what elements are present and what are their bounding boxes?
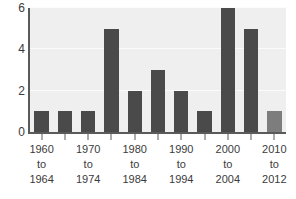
x-axis-tick-label: 1960to1964 — [19, 142, 65, 187]
bar — [221, 8, 235, 132]
x-axis-tick-label-line: 1994 — [158, 172, 204, 187]
x-axis-tick-label-line: to — [251, 157, 296, 172]
x-axis-tick — [134, 134, 135, 140]
bar — [128, 91, 142, 132]
x-axis-tick — [274, 134, 275, 140]
x-axis-tick-label-line: to — [65, 157, 111, 172]
x-axis-tick-label: 1970to1974 — [65, 142, 111, 187]
bar — [58, 111, 72, 132]
bar — [197, 111, 211, 132]
y-axis-tick-label: 4 — [6, 43, 25, 55]
bar — [34, 111, 48, 132]
x-axis-tick — [181, 134, 182, 140]
x-axis-tick-label: 2010to2012 — [251, 142, 296, 187]
bar — [151, 70, 165, 132]
bar — [267, 111, 281, 132]
x-axis-tick — [64, 134, 65, 140]
x-axis-tick-label-line: 2000 — [205, 142, 251, 157]
x-axis-tick-label-line: to — [205, 157, 251, 172]
bar-chart: 0246 1960to19641970to19741980to19841990t… — [0, 0, 296, 199]
x-axis-tick-label-line: 1964 — [19, 172, 65, 187]
y-axis-tick-labels: 0246 — [6, 8, 25, 132]
x-axis-tick-label-line: 1960 — [19, 142, 65, 157]
x-axis-tick-label-line: 2004 — [205, 172, 251, 187]
x-axis-ticks — [30, 134, 286, 140]
x-axis-tick-label: 1980to1984 — [112, 142, 158, 187]
plot-area — [30, 8, 286, 132]
x-axis-tick-label-line: 1990 — [158, 142, 204, 157]
bar — [244, 29, 258, 132]
x-axis-tick-label-line: 2010 — [251, 142, 296, 157]
x-axis-tick-label-line: to — [19, 157, 65, 172]
x-axis-tick — [111, 134, 112, 140]
y-axis-tick-label: 6 — [6, 2, 25, 14]
x-axis-tick — [158, 134, 159, 140]
x-axis-tick-labels: 1960to19641970to19741980to19841990to1994… — [30, 142, 286, 194]
x-axis-tick — [251, 134, 252, 140]
x-axis-tick — [88, 134, 89, 140]
x-axis-tick-label-line: 2012 — [251, 172, 296, 187]
x-axis-tick-label-line: to — [112, 157, 158, 172]
x-axis-tick-label-line: to — [158, 157, 204, 172]
y-axis-tick-label: 0 — [6, 126, 25, 138]
bar — [174, 91, 188, 132]
bar — [104, 29, 118, 132]
x-axis-tick-label-line: 1980 — [112, 142, 158, 157]
x-axis-tick-label-line: 1984 — [112, 172, 158, 187]
bar-series — [30, 8, 286, 132]
x-axis-tick-label: 2000to2004 — [205, 142, 251, 187]
y-axis-line — [28, 8, 30, 133]
x-axis-tick-label-line: 1970 — [65, 142, 111, 157]
x-axis-tick — [41, 134, 42, 140]
x-axis-tick-label: 1990to1994 — [158, 142, 204, 187]
x-axis-tick-label-line: 1974 — [65, 172, 111, 187]
x-axis-tick — [204, 134, 205, 140]
bar — [81, 111, 95, 132]
y-axis-tick-label: 2 — [6, 85, 25, 97]
x-axis-tick — [227, 134, 228, 140]
